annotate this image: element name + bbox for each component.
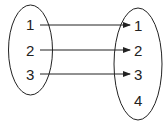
domain-label-2: 2	[26, 42, 34, 59]
domain-label-3: 3	[26, 66, 34, 83]
codomain-label-4: 4	[134, 92, 142, 109]
domain-label-1: 1	[26, 16, 34, 33]
codomain-label-1: 1	[134, 17, 142, 34]
codomain-label-3: 3	[134, 66, 142, 83]
codomain-label-2: 2	[134, 42, 142, 59]
mapping-diagram: 1 2 3 1 2 3 4	[0, 0, 168, 127]
